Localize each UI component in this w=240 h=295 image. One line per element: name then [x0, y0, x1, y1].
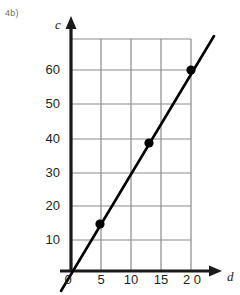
x-axis-label: d: [227, 269, 234, 285]
y-tick-label-30: 30: [30, 165, 60, 180]
x-tick-label-5: 5: [91, 272, 111, 287]
y-tick-label-10: 10: [30, 232, 60, 247]
y-tick-label-60: 60: [30, 62, 60, 77]
x-tick-label-10: 10: [117, 272, 145, 287]
y-axis-arrow-icon: [66, 16, 77, 29]
y-tick-label-20: 20: [30, 198, 60, 213]
grid-lines: [71, 39, 191, 271]
data-point-1: [95, 219, 104, 228]
x-axis-arrow-icon: [209, 266, 222, 277]
y-tick-label-40: 40: [30, 131, 60, 146]
data-point-2: [144, 138, 153, 147]
x-tick-label-15: 15: [147, 272, 175, 287]
x-tick-label-20: 2 0: [177, 272, 207, 287]
x-tick-label-0: 0: [58, 272, 78, 287]
y-tick-label-50: 50: [30, 96, 60, 111]
y-axis-label: c: [55, 17, 61, 33]
y-axis: [66, 16, 77, 272]
coordinate-graph: [0, 0, 240, 295]
chart-figure: 4b): [0, 0, 240, 295]
question-label: 4b): [5, 8, 19, 18]
data-point-3: [186, 65, 195, 74]
